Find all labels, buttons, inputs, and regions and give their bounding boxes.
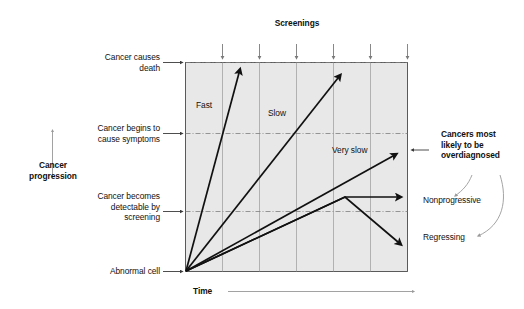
overdiagnosis-figure: Screenings Cancer causes death Cancer be… bbox=[0, 0, 524, 309]
trajectory-label-slow: Slow bbox=[268, 108, 310, 119]
trajectory-label-very-slow: Very slow bbox=[332, 145, 394, 156]
screenings-title: Screenings bbox=[247, 18, 347, 29]
level-label-abnormal: Abnormal cell bbox=[64, 266, 160, 277]
level-label-death: Cancer causes death bbox=[63, 52, 160, 73]
trajectory-label-nonprogressive: Nonprogressive bbox=[423, 195, 513, 206]
level-pointers bbox=[163, 63, 182, 272]
connector-nonprogressive bbox=[455, 175, 472, 196]
x-axis-label: Time bbox=[193, 286, 253, 297]
level-label-symptoms: Cancer begins to cause symptoms bbox=[58, 123, 160, 144]
y-axis-label: Cancer progression bbox=[8, 160, 98, 181]
trajectory-label-regressing: Regressing bbox=[423, 232, 503, 243]
screening-arrows bbox=[223, 44, 408, 58]
annotation-overdiagnosed: Cancers most likely to be overdiagnosed bbox=[441, 129, 524, 161]
trajectory-label-fast: Fast bbox=[196, 100, 236, 111]
level-label-detectable: Cancer becomes detectable by screening bbox=[58, 191, 160, 223]
connector-regressing bbox=[478, 175, 504, 236]
